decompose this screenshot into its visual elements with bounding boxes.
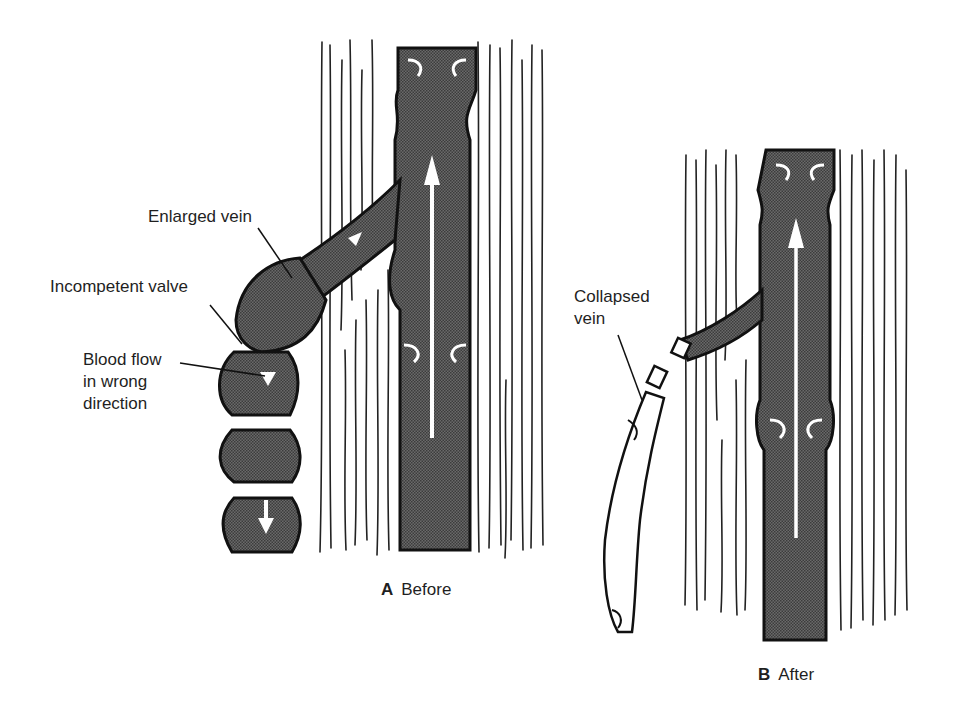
- label-collapsed-vein-2: vein: [574, 308, 605, 330]
- label-collapsed-vein-1: Collapsed: [574, 286, 650, 308]
- label-enlarged-vein: Enlarged vein: [148, 206, 252, 228]
- label-blood-flow-1: Blood flow: [83, 349, 161, 371]
- panel-b-after: [604, 150, 907, 640]
- label-incompetent-valve: Incompetent valve: [50, 276, 188, 298]
- caption-letter-b: B: [758, 665, 770, 684]
- leader-line-b: [618, 335, 642, 400]
- caption-panel-b: BAfter: [758, 665, 814, 685]
- caption-text-a: Before: [401, 580, 451, 599]
- label-blood-flow-3: direction: [83, 393, 147, 415]
- caption-text-b: After: [778, 665, 814, 684]
- caption-panel-a: ABefore: [381, 580, 451, 600]
- superficial-vein-chain-a: [219, 258, 326, 552]
- deep-vein-b: [680, 150, 834, 640]
- collapsed-vein: [604, 338, 691, 632]
- panel-a-before: [180, 40, 543, 558]
- label-blood-flow-2: in wrong: [83, 371, 147, 393]
- caption-letter-a: A: [381, 580, 393, 599]
